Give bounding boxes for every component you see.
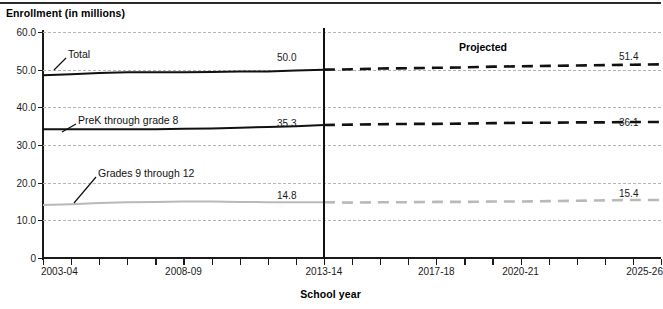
x-tick-2020-21 [521, 259, 522, 265]
x-tick-label-2025-26: 2025-26 [626, 266, 663, 277]
x-tick-2018-19 [464, 259, 465, 265]
value-prek-2025: 36.1 [619, 117, 638, 128]
series-path-0-actual [43, 70, 324, 76]
value-grades-2025: 15.4 [619, 188, 638, 199]
x-tick-label-2020-21: 2020-21 [502, 266, 539, 277]
series-lines [43, 32, 661, 258]
series-label-grades: Grades 9 through 12 [98, 167, 194, 179]
series-path-1-projected [324, 122, 661, 125]
x-tick-label-2003-04: 2003-04 [41, 266, 78, 277]
x-tick-label-2008-09: 2008-09 [165, 266, 202, 277]
x-tick-2016-17 [408, 259, 409, 265]
y-tick-label-40: 40.0 [0, 102, 36, 113]
value-grades-2013: 14.8 [277, 190, 296, 201]
value-prek-2013: 35.3 [277, 118, 296, 129]
projected-region-label: Projected [413, 41, 553, 53]
x-tick-2017-18 [436, 259, 437, 265]
x-tick-2024-25 [633, 259, 634, 265]
x-tick-2009-10 [212, 259, 213, 265]
value-total-2013: 50.0 [277, 52, 296, 63]
y-tick-label-20: 20.0 [0, 177, 36, 188]
y-axis-title: Enrollment (in millions) [6, 7, 125, 19]
x-tick-2005-06 [99, 259, 100, 265]
x-tick-2010-11 [240, 259, 241, 265]
top-divider-rule [0, 2, 661, 4]
y-tick-label-50: 50.0 [0, 64, 36, 75]
x-tick-2019-20 [492, 259, 493, 265]
x-tick-2021-22 [549, 259, 550, 265]
x-tick-2022-23 [577, 259, 578, 265]
series-label-prek: PreK through grade 8 [78, 114, 178, 126]
series-path-2-projected [324, 200, 661, 203]
x-tick-2013-14 [324, 259, 325, 265]
series-path-2-actual [43, 202, 324, 205]
x-tick-2006-07 [127, 259, 128, 265]
plot-area: 60.0 50.0 40.0 30.0 20.0 10.0 0 [43, 32, 661, 258]
x-tick-2011-12 [268, 259, 269, 265]
x-tick-2003-04 [43, 259, 44, 265]
x-tick-2007-08 [155, 259, 156, 265]
series-label-total: Total [68, 48, 90, 60]
y-tick-label-10: 10.0 [0, 215, 36, 226]
y-tick-label-30: 30.0 [0, 140, 36, 151]
x-tick-2025-26 [661, 259, 662, 265]
x-tick-2023-24 [605, 259, 606, 265]
x-tick-2004-05 [71, 259, 72, 265]
value-total-2025: 51.4 [619, 51, 638, 62]
x-tick-2008-09 [183, 259, 184, 265]
projection-divider-line [323, 28, 325, 259]
x-axis-title: School year [0, 288, 661, 300]
y-tick-label-60: 60.0 [0, 27, 36, 38]
x-tick-label-2013-14: 2013-14 [306, 266, 343, 277]
x-tick-2014-15 [352, 259, 353, 265]
x-tick-2015-16 [380, 259, 381, 265]
x-tick-label-2017-18: 2017-18 [418, 266, 455, 277]
series-path-0-projected [324, 64, 661, 69]
y-tick-label-0: 0 [0, 253, 36, 264]
x-tick-2012-13 [296, 259, 297, 265]
